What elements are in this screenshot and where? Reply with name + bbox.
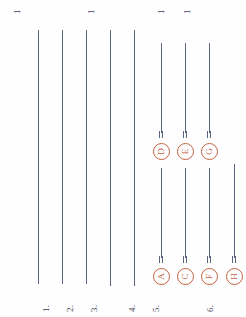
- vertical-rule: [134, 30, 135, 286]
- vertical-rule: [209, 168, 210, 258]
- top-edge-digit: 1: [12, 10, 22, 15]
- vertical-rule: [209, 43, 210, 133]
- marker-letter: G: [205, 148, 214, 155]
- vertical-rule: [234, 164, 235, 258]
- item-number-label: 3.: [89, 305, 99, 312]
- marker-tick: [207, 256, 211, 263]
- marker-tick: [159, 131, 163, 138]
- item-number-label: 5.: [151, 305, 161, 312]
- document-canvas: 1111 1.2.3.4.5.6. DEGACFH: [0, 0, 246, 317]
- item-number-label: 2.: [65, 305, 75, 312]
- marker-letter: E: [181, 149, 190, 155]
- marker-letter: A: [157, 273, 166, 280]
- top-edge-digit: 1: [156, 10, 166, 15]
- item-number-label: 1.: [41, 305, 51, 312]
- circled-letter-marker[interactable]: C: [177, 268, 194, 285]
- marker-tick: [183, 256, 187, 263]
- item-number-label: 6.: [205, 305, 215, 312]
- vertical-rule: [110, 30, 111, 286]
- vertical-rule: [185, 43, 186, 133]
- vertical-rule: [38, 30, 39, 284]
- circled-letter-marker[interactable]: F: [201, 268, 218, 285]
- marker-letter: C: [181, 273, 190, 279]
- marker-tick: [183, 131, 187, 138]
- vertical-rule: [161, 168, 162, 258]
- vertical-rule: [161, 43, 162, 133]
- circled-letter-marker[interactable]: E: [177, 143, 194, 160]
- item-number-label: 4.: [127, 305, 137, 312]
- top-edge-digit: 1: [86, 10, 96, 15]
- marker-letter: D: [157, 148, 166, 155]
- marker-tick: [207, 131, 211, 138]
- marker-tick: [232, 256, 236, 263]
- vertical-rule: [185, 168, 186, 258]
- circled-letter-marker[interactable]: H: [226, 268, 243, 285]
- marker-tick: [159, 256, 163, 263]
- circled-letter-marker[interactable]: D: [153, 143, 170, 160]
- top-edge-digit: 1: [182, 10, 192, 15]
- marker-letter: H: [230, 273, 239, 280]
- circled-letter-marker[interactable]: A: [153, 268, 170, 285]
- marker-letter: F: [205, 274, 214, 279]
- vertical-rule: [62, 30, 63, 284]
- vertical-rule: [86, 30, 87, 284]
- circled-letter-marker[interactable]: G: [201, 143, 218, 160]
